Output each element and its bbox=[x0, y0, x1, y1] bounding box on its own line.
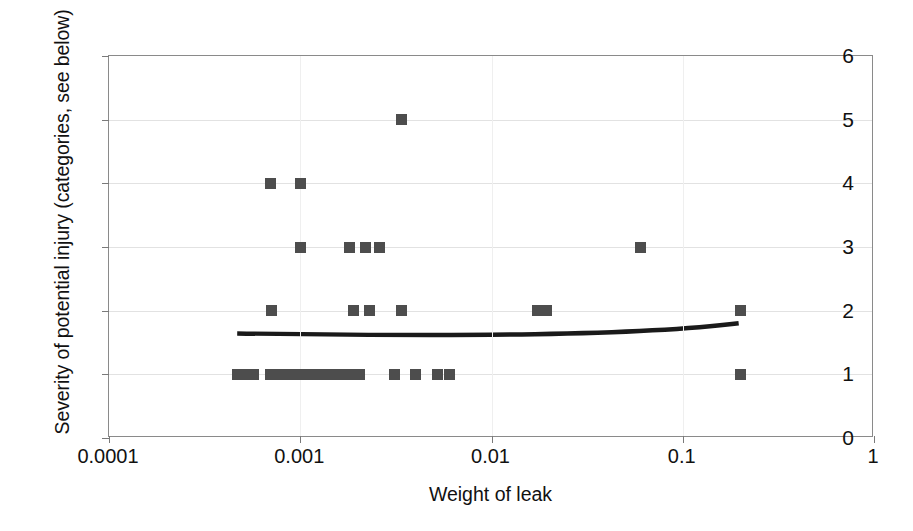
horizontal-gridline bbox=[109, 120, 872, 121]
y-axis-tick-label: 1 bbox=[814, 363, 854, 384]
horizontal-gridline bbox=[109, 183, 872, 184]
data-point bbox=[735, 369, 746, 380]
y-axis-tick bbox=[102, 311, 109, 312]
trendline-path bbox=[237, 323, 738, 335]
y-axis-title: Severity of potential injury (categories… bbox=[51, 15, 74, 435]
y-axis-tick bbox=[102, 120, 109, 121]
plot-area: 0123456 bbox=[108, 55, 873, 437]
x-axis-tick-label: 0.01 bbox=[431, 446, 551, 466]
data-point bbox=[410, 369, 421, 380]
horizontal-gridline bbox=[109, 247, 872, 248]
data-point bbox=[265, 178, 276, 189]
x-axis-tick-label: 0.1 bbox=[622, 446, 742, 466]
data-point bbox=[374, 242, 385, 253]
x-axis-tick bbox=[109, 436, 110, 443]
data-point bbox=[396, 305, 407, 316]
y-axis-tick-label: 3 bbox=[814, 236, 854, 257]
data-point bbox=[541, 305, 552, 316]
x-axis-title: Weight of leak bbox=[108, 483, 873, 506]
y-axis-tick-label: 5 bbox=[814, 109, 854, 130]
y-axis-tick bbox=[102, 56, 109, 57]
data-point bbox=[354, 369, 365, 380]
x-axis-tick bbox=[683, 436, 684, 443]
y-axis-tick-label: 2 bbox=[814, 300, 854, 321]
x-axis-tick-label: 0.001 bbox=[239, 446, 359, 466]
y-axis-tick bbox=[102, 183, 109, 184]
vertical-gridline bbox=[683, 56, 684, 436]
data-point bbox=[389, 369, 400, 380]
scatter-chart-figure: Severity of potential injury (categories… bbox=[0, 0, 913, 531]
data-point bbox=[348, 305, 359, 316]
data-point bbox=[364, 305, 375, 316]
x-axis-tick-label: 0.0001 bbox=[48, 446, 168, 466]
data-point bbox=[295, 242, 306, 253]
y-axis-tick bbox=[102, 438, 109, 439]
horizontal-gridline bbox=[109, 374, 872, 375]
y-axis-tick-label: 6 bbox=[814, 45, 854, 66]
vertical-gridline bbox=[492, 56, 493, 436]
data-point bbox=[248, 369, 259, 380]
data-point bbox=[360, 242, 371, 253]
data-point bbox=[735, 305, 746, 316]
data-point bbox=[432, 369, 443, 380]
data-point bbox=[396, 114, 407, 125]
trendline-curve bbox=[109, 56, 872, 436]
data-point bbox=[266, 305, 277, 316]
y-axis-tick bbox=[102, 247, 109, 248]
x-axis-tick bbox=[874, 436, 875, 443]
data-point bbox=[343, 369, 354, 380]
y-axis-tick bbox=[102, 374, 109, 375]
y-axis-tick-label: 4 bbox=[814, 172, 854, 193]
data-point bbox=[344, 242, 355, 253]
data-point bbox=[295, 178, 306, 189]
y-axis-tick-label: 0 bbox=[814, 427, 854, 448]
x-axis-tick bbox=[492, 436, 493, 443]
horizontal-gridline bbox=[109, 311, 872, 312]
x-axis-tick bbox=[300, 436, 301, 443]
data-point bbox=[635, 242, 646, 253]
data-point bbox=[444, 369, 455, 380]
x-axis-tick-label: 1 bbox=[813, 446, 913, 466]
